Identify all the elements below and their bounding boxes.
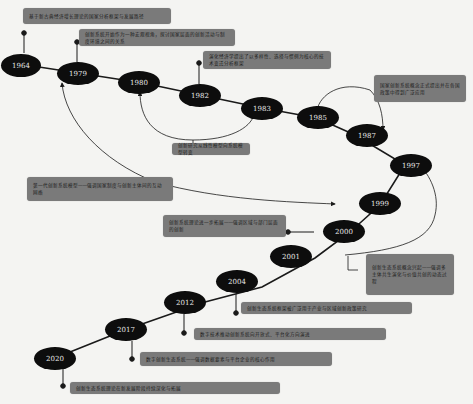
callout-text: 数字创新生态系统——强调数据要素与平台企业的核心作用 xyxy=(146,356,275,363)
node-2000: 2000 xyxy=(323,220,365,243)
callout-1985-1987: 国家创新系统概念正式提出并在各国政策中得到广泛应用 xyxy=(374,75,466,102)
callout-1982: 演化经济学提出了以多样性、选择与惯例为核心的技术变迁分析框架 xyxy=(203,51,331,69)
callout-2001-1997: 创新生态系统概念兴起——强调多主体共生演化与价值共创的动态过程 xyxy=(366,254,454,295)
node-2004: 2004 xyxy=(216,270,258,293)
callout-text: 数字技术推动创新系统向开放式、平台化方向演进 xyxy=(200,331,310,338)
callout-1979-1999: 第一代创新系统模型——强调国家制度与创新主体间的互动网络 xyxy=(27,177,173,201)
node-1987: 1987 xyxy=(346,124,388,147)
node-1999: 1999 xyxy=(359,192,401,215)
node-1980: 1980 xyxy=(118,71,160,94)
node-label: 1985 xyxy=(309,114,327,122)
node-1985: 1985 xyxy=(297,106,339,129)
callout-text: 创新研究从线性模型向系统模型转变 xyxy=(178,142,244,156)
callout-2020: 创新生态系统理论在新发展阶段持续深化与拓展 xyxy=(70,382,280,394)
node-1979: 1979 xyxy=(57,62,99,85)
node-label: 2020 xyxy=(46,355,64,363)
node-1964: 1964 xyxy=(1,54,41,77)
callout-2012: 数字技术推动创新系统向开放式、平台化方向演进 xyxy=(194,328,386,340)
node-label: 1983 xyxy=(253,105,271,113)
callout-2017: 数字创新生态系统——强调数据要素与平台企业的核心作用 xyxy=(140,352,332,366)
node-1983: 1983 xyxy=(241,97,283,120)
callout-text: 演化经济学提出了以多样性、选择与惯例为核心的技术变迁分析框架 xyxy=(209,53,325,67)
node-label: 2017 xyxy=(117,326,135,334)
node-label: 1987 xyxy=(358,132,376,140)
node-1997: 1997 xyxy=(390,154,432,177)
node-label: 1997 xyxy=(402,162,420,170)
callout-text: 创新系统理论进一步拓展——强调区域与部门层面的创新 xyxy=(169,219,280,233)
callout-1964: 基于新古典经济增长理论的国家分析框架与发展路径 xyxy=(23,8,171,24)
timeline-diagram: 1964 1979 1980 1982 1983 1985 1987 1997 … xyxy=(0,0,473,404)
node-2012: 2012 xyxy=(164,291,206,314)
timeline-line xyxy=(26,65,405,358)
node-label: 1982 xyxy=(191,92,209,100)
callout-text: 创新生态系统理论在新发展阶段持续深化与拓展 xyxy=(76,385,181,392)
callout-text: 创新系统开始作为一种宏观视角，探讨国家层面的创新活动与制度环境之间的关系 xyxy=(85,31,229,45)
callout-1979: 创新系统开始作为一种宏观视角，探讨国家层面的创新活动与制度环境之间的关系 xyxy=(79,29,235,46)
node-label: 1999 xyxy=(371,200,389,208)
node-label: 1964 xyxy=(12,62,30,70)
node-label: 2012 xyxy=(176,299,194,307)
node-label: 2001 xyxy=(282,253,300,261)
callout-1980-1983: 创新研究从线性模型向系统模型转变 xyxy=(172,143,250,155)
callout-text: 创新生态系统框架被广泛用于产业与区域创新政策研究 xyxy=(247,305,367,312)
callout-text: 基于新古典经济增长理论的国家分析框架与发展路径 xyxy=(29,13,144,20)
node-label: 1979 xyxy=(69,70,87,78)
node-2020: 2020 xyxy=(34,347,76,370)
node-1982: 1982 xyxy=(179,84,221,107)
node-label: 2004 xyxy=(228,278,246,286)
node-2017: 2017 xyxy=(105,318,147,341)
callout-text: 国家创新系统概念正式提出并在各国政策中得到广泛应用 xyxy=(380,82,460,96)
node-label: 2000 xyxy=(335,228,353,236)
callout-2004: 创新生态系统框架被广泛用于产业与区域创新政策研究 xyxy=(241,302,412,314)
node-label: 1980 xyxy=(130,79,148,87)
node-2001: 2001 xyxy=(270,245,312,268)
callout-text: 创新生态系统概念兴起——强调多主体共生演化与价值共创的动态过程 xyxy=(372,264,448,285)
callout-2000: 创新系统理论进一步拓展——强调区域与部门层面的创新 xyxy=(163,215,286,237)
callout-text: 第一代创新系统模型——强调国家制度与创新主体间的互动网络 xyxy=(33,182,167,196)
